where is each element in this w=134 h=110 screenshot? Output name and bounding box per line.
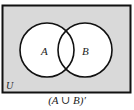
diagram-caption: (A ∪ B)′ [0,94,134,107]
set-a-label: A [40,45,48,57]
universe-label: U [6,80,14,91]
set-b-label: B [82,45,89,57]
